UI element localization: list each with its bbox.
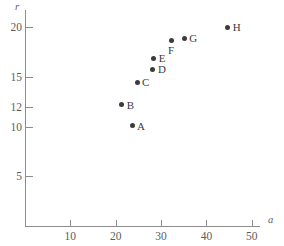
data-point-marker: [225, 25, 230, 30]
data-point-label: F: [168, 45, 174, 56]
data-point-label: H: [233, 22, 241, 33]
x-tick-label: 20: [101, 231, 131, 243]
x-tick-label: 50: [237, 231, 267, 243]
x-tick-mark: [161, 220, 162, 226]
data-point-label: G: [189, 33, 197, 44]
x-tick-mark: [116, 220, 117, 226]
y-tick-mark: [26, 27, 33, 28]
y-tick-label: 20: [0, 22, 22, 34]
y-tick-label: 10: [0, 122, 22, 134]
x-axis-line: [25, 226, 260, 227]
y-tick-mark: [26, 77, 33, 78]
data-point-label: C: [142, 77, 149, 88]
y-tick-mark: [26, 127, 33, 128]
x-tick-label: 40: [191, 231, 221, 243]
y-tick-mark: [26, 176, 33, 177]
x-tick-mark: [206, 220, 207, 226]
data-point-label: D: [158, 64, 166, 75]
data-point-marker: [150, 67, 155, 72]
data-point-label: A: [137, 121, 145, 132]
data-point-marker: [151, 56, 156, 61]
y-tick-label: 5: [0, 171, 22, 183]
x-tick-label: 10: [55, 231, 85, 243]
x-tick-mark: [252, 220, 253, 226]
data-point-marker: [135, 80, 140, 85]
data-point-marker: [119, 102, 124, 107]
data-point-label: E: [159, 53, 166, 64]
y-tick-mark: [26, 107, 33, 108]
y-tick-label: 12: [0, 102, 22, 114]
x-tick-label: 30: [146, 231, 176, 243]
x-tick-mark: [70, 220, 71, 226]
data-point-marker: [130, 123, 135, 128]
x-axis-title: a: [268, 215, 273, 226]
data-point-label: B: [127, 100, 134, 111]
data-point-marker: [182, 36, 187, 41]
y-axis-title: r: [15, 2, 19, 13]
scatter-plot: r a 510121520 1020304050 ABCDEFGH: [0, 0, 284, 246]
y-tick-label: 15: [0, 72, 22, 84]
y-axis-line: [25, 10, 26, 227]
data-point-marker: [169, 38, 174, 43]
